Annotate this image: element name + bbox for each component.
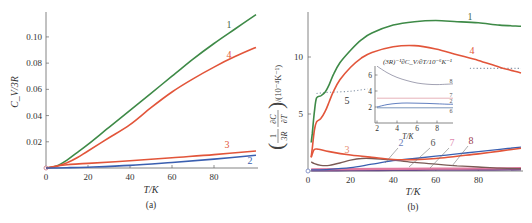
b-ylabel-open-paren: ( (263, 143, 288, 150)
a-curve-label-4: 4 (227, 49, 232, 60)
a-curve-3 (46, 151, 256, 168)
a-y-tick-label: 0.02 (26, 137, 42, 147)
inset-y-tick-label: 2 (368, 103, 372, 112)
inset-curve-label-8: 8 (450, 78, 453, 84)
b-pointer-label-7: 7 (450, 137, 455, 148)
a-y-tick-label: 0.06 (26, 84, 42, 94)
panel-b: 020406080510 14352678 T/K (b) ( 1 3R ∂C … (263, 11, 523, 213)
inset-y-tick-label: 6 (368, 71, 372, 80)
b-ylabel-den1: 3R (280, 131, 289, 141)
b-pointer-label-6: 6 (431, 137, 436, 148)
b-x-tick-label: 40 (389, 175, 399, 185)
a-y-tick-label: 0.10 (26, 32, 42, 42)
b-origin-marker (306, 169, 310, 173)
b-curve-label-4: 4 (470, 45, 475, 56)
b-ylabel-num1: 1 (269, 134, 278, 138)
inset-x-axis-label: T/K (402, 132, 414, 141)
b-y-tick-label: 5 (299, 109, 304, 119)
a-y-axis-label: C_V/3R (9, 76, 20, 108)
b-x-axis-label: T/K (405, 186, 421, 197)
inset-background (371, 56, 459, 126)
b-caption: (b) (407, 202, 418, 213)
a-x-tick-label: 0 (44, 172, 49, 182)
inset-y-tick-label: 4 (368, 87, 372, 96)
panel-a: 0204060800.020.040.060.080.10 1432 T/K (… (9, 12, 258, 211)
b-ylabel-den2: ∂T (280, 114, 289, 123)
a-y-tick-label: 0.04 (26, 111, 42, 121)
figure: 0204060800.020.040.060.080.10 1432 T/K (… (0, 0, 532, 223)
b-curve-2 (311, 147, 521, 170)
inset-title: (3R)⁻¹∂C_V/∂T/10⁻⁶K⁻¹ (383, 58, 452, 66)
b-inset: 2468246 8726 (3R)⁻¹∂C_V/∂T/10⁻⁶K⁻¹ T/K (368, 56, 459, 141)
a-x-tick-label: 40 (126, 172, 136, 182)
inset-x-tick-label: 6 (415, 124, 419, 133)
a-x-axis-label: T/K (143, 184, 159, 195)
b-y-tick-label: 10 (294, 52, 304, 62)
a-curve-label-3: 3 (225, 139, 230, 150)
a-curve-label-1: 1 (227, 19, 232, 30)
inset-x-tick-label: 8 (435, 124, 439, 133)
b-x-tick-label: 0 (306, 175, 311, 185)
a-x-tick-label: 20 (84, 172, 94, 182)
b-ylabel-units: /(10⁻⁴K⁻¹) (273, 65, 283, 102)
inset-x-tick-label: 4 (395, 124, 399, 133)
b-curve-label-3: 3 (345, 144, 350, 155)
a-labels: 1432 (225, 19, 253, 166)
b-x-tick-label: 80 (474, 175, 484, 185)
b-y-axis-label: ( 1 3R ∂C ∂T ) /(10⁻⁴K⁻¹) (263, 65, 289, 150)
b-ylabel-num2: ∂C (269, 114, 278, 124)
a-y-tick-label: 0.08 (26, 58, 42, 68)
b-x-tick-label: 60 (431, 175, 441, 185)
b-curve-label-1: 1 (468, 11, 473, 22)
a-caption: (a) (146, 200, 157, 211)
a-x-tick-label: 60 (168, 172, 178, 182)
b-curve-label-5: 5 (345, 95, 350, 106)
inset-curve-label-2: 2 (450, 98, 453, 104)
b-x-tick-label: 20 (346, 175, 356, 185)
a-x-tick-label: 80 (210, 172, 220, 182)
inset-curve-label-6: 6 (450, 108, 453, 114)
inset-x-tick-label: 2 (375, 124, 379, 133)
a-curve-label-2: 2 (248, 155, 253, 166)
b-pointer-label-8: 8 (469, 135, 474, 146)
